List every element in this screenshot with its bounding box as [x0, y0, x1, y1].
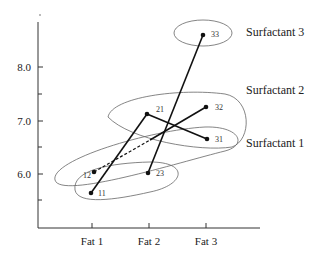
point-23 — [146, 171, 151, 176]
point-label: 31 — [215, 135, 223, 144]
point-label: 23 — [156, 169, 164, 178]
point-label: 21 — [156, 105, 164, 114]
axis-top-dot — [39, 14, 40, 15]
interaction-chart: 8.0 7.0 6.0 Fat 1 Fat 2 Fat 3 11 12 21 2… — [0, 0, 327, 255]
line-23-33 — [148, 35, 203, 173]
group-label-surfactant-1: Surfactant 1 — [246, 136, 304, 150]
point-label: 12 — [83, 171, 91, 180]
x-tick-label: Fat 3 — [195, 235, 218, 247]
x-tick-label: Fat 2 — [138, 235, 160, 247]
y-tick-label: 7.0 — [17, 115, 31, 127]
point-label: 32 — [215, 103, 223, 112]
axes — [38, 22, 260, 228]
group-label-surfactant-3: Surfactant 3 — [246, 25, 304, 39]
point-label: 11 — [98, 189, 106, 198]
point-31 — [205, 137, 210, 142]
y-tick-label: 6.0 — [17, 168, 31, 180]
point-12 — [92, 170, 97, 175]
point-label: 33 — [211, 30, 219, 39]
point-33 — [201, 33, 206, 38]
group-label-surfactant-2: Surfactant 2 — [246, 83, 304, 97]
line-21-31 — [147, 114, 207, 139]
point-32 — [204, 105, 209, 110]
point-21 — [145, 112, 150, 117]
y-tick-label: 8.0 — [17, 61, 31, 73]
point-11 — [89, 191, 94, 196]
x-tick-label: Fat 1 — [81, 235, 103, 247]
